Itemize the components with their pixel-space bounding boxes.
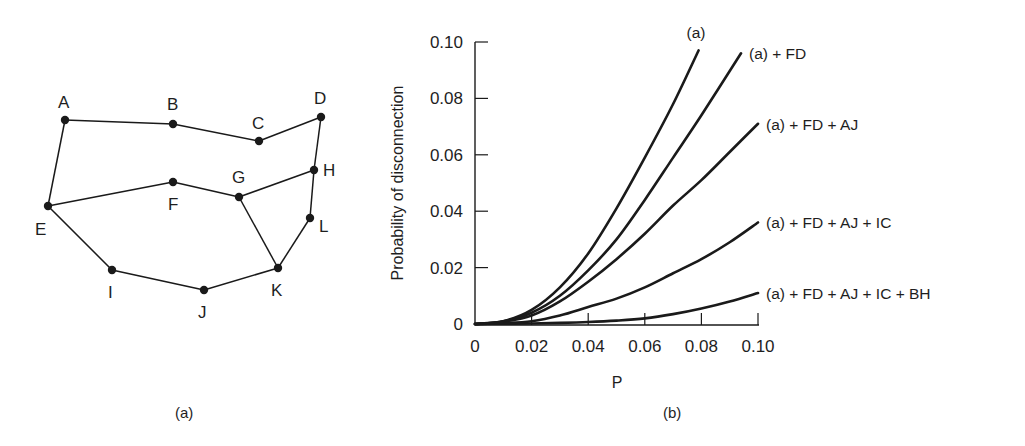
node-label-G: G — [232, 168, 245, 187]
node-L — [306, 214, 314, 222]
caption-a: (a) — [175, 404, 193, 421]
y-ticks: 00.020.040.060.080.10 — [430, 33, 488, 334]
edge-GH — [239, 170, 314, 197]
node-label-J: J — [198, 303, 207, 322]
node-label-D: D — [314, 89, 326, 108]
y-axis-title: Probability of disconnection — [389, 86, 406, 281]
node-label-I: I — [108, 283, 113, 302]
y-tick-label: 0.08 — [430, 89, 463, 108]
edge-AB — [65, 120, 173, 124]
node-label-A: A — [58, 93, 70, 112]
y-tick-label: 0.02 — [430, 259, 463, 278]
chart: 00.020.040.060.080.10 00.020.040.060.080… — [389, 24, 931, 391]
edge-LK — [278, 218, 310, 268]
edge-GK — [239, 197, 278, 268]
edge-HL — [310, 170, 314, 218]
x-tick-label: 0.10 — [741, 337, 774, 356]
curve-label-2: (a) + FD + AJ — [766, 116, 858, 133]
edge-IJ — [112, 270, 204, 290]
node-A — [61, 116, 69, 124]
curve-labels: (a)(a) + FD(a) + FD + AJ(a) + FD + AJ + … — [687, 24, 931, 302]
curves — [475, 50, 758, 324]
curve-label-0: (a) — [687, 24, 706, 41]
network-node-labels: ABCDEFGHIJKL — [35, 89, 335, 322]
network-nodes — [44, 113, 325, 294]
x-tick-label: 0 — [470, 337, 479, 356]
node-E — [44, 202, 52, 210]
node-label-K: K — [271, 281, 283, 300]
node-label-C: C — [252, 114, 264, 133]
node-H — [310, 166, 318, 174]
edge-EF — [48, 182, 173, 206]
edge-CD — [259, 117, 321, 141]
curve-1 — [475, 53, 741, 324]
y-tick-label: 0 — [454, 315, 463, 334]
edge-FG — [173, 182, 239, 197]
edge-BC — [173, 124, 259, 141]
caption-b: (b) — [663, 404, 681, 421]
node-J — [200, 286, 208, 294]
x-tick-label: 0.02 — [515, 337, 548, 356]
node-I — [108, 266, 116, 274]
x-tick-label: 0.06 — [628, 337, 661, 356]
edge-AE — [48, 120, 65, 206]
network-edges — [48, 117, 321, 290]
y-tick-label: 0.10 — [430, 33, 463, 52]
y-tick-label: 0.04 — [430, 202, 463, 221]
node-F — [169, 178, 177, 186]
node-K — [274, 264, 282, 272]
node-label-H: H — [323, 161, 335, 180]
node-G — [235, 193, 243, 201]
y-tick-label: 0.06 — [430, 146, 463, 165]
figure: ABCDEFGHIJKL (a) 00.020.040.060.080.10 0… — [0, 0, 1025, 446]
node-label-L: L — [319, 217, 328, 236]
node-B — [169, 120, 177, 128]
x-axis-title: P — [612, 374, 623, 391]
edge-DH — [314, 117, 321, 170]
curve-label-4: (a) + FD + AJ + IC + BH — [766, 285, 931, 302]
node-C — [255, 137, 263, 145]
node-label-B: B — [167, 95, 178, 114]
curve-label-3: (a) + FD + AJ + IC — [766, 214, 891, 231]
curve-2 — [475, 124, 758, 324]
x-tick-label: 0.08 — [685, 337, 718, 356]
node-label-F: F — [168, 195, 178, 214]
x-tick-label: 0.04 — [572, 337, 605, 356]
edge-EI — [48, 206, 112, 270]
curve-label-1: (a) + FD — [749, 45, 806, 62]
node-label-E: E — [35, 220, 46, 239]
node-D — [317, 113, 325, 121]
edge-JK — [204, 268, 278, 290]
